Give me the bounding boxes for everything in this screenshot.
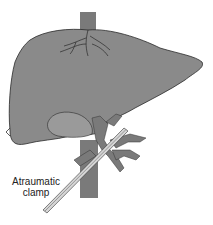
clamp-label: Atraumatic clamp — [8, 176, 64, 198]
clamp-label-line2: clamp — [8, 187, 64, 198]
clamp-label-line1: Atraumatic — [8, 176, 64, 187]
ligament — [6, 128, 10, 136]
